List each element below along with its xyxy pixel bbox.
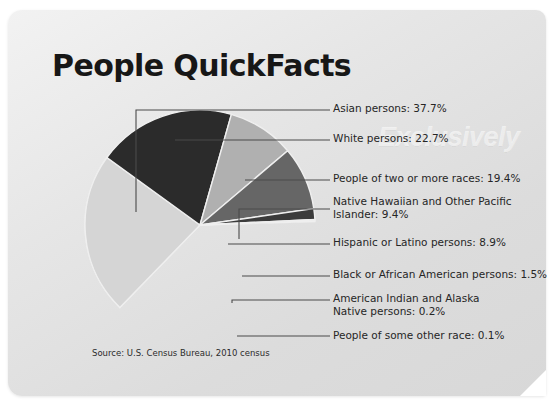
legend-label-asian-persons[interactable]: Asian persons: 37.7% — [333, 102, 447, 115]
source-citation: Source: U.S. Census Bureau, 2010 census — [92, 348, 270, 358]
leader-line-american-indian — [232, 300, 330, 303]
legend-label-black-african-american[interactable]: Black or African American persons: 1.5% — [333, 268, 547, 281]
legend-label-native-hawaiian[interactable]: Native Hawaiian and Other Pacific Island… — [333, 195, 512, 220]
legend-label-white-persons[interactable]: White persons: 22.7% — [333, 132, 449, 145]
legend-label-american-indian[interactable]: American Indian and Alaska Native person… — [333, 292, 480, 317]
legend-label-some-other-race[interactable]: People of some other race: 0.1% — [333, 329, 504, 342]
legend-label-hispanic-or-latino[interactable]: Hispanic or Latino persons: 8.9% — [333, 236, 506, 249]
legend-label-two-or-more-races[interactable]: People of two or more races: 19.4% — [333, 172, 520, 185]
